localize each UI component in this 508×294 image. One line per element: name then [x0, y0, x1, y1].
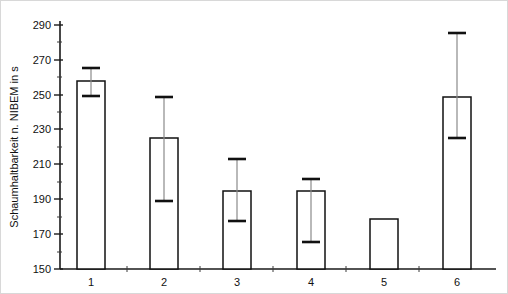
y-tick-label-250: 250 [33, 89, 51, 101]
bar-group-6 [443, 33, 471, 269]
x-tick-label-6: 6 [454, 276, 460, 288]
y-tick-label-290: 290 [33, 19, 51, 31]
x-tick-label-4: 4 [308, 276, 314, 288]
y-tick-label-190: 190 [33, 193, 51, 205]
bar-group-1 [77, 68, 105, 269]
x-tick-label-1: 1 [88, 276, 94, 288]
x-tick-label-2: 2 [161, 276, 167, 288]
chart-figure: 290 270 250 230 210 190 170 150 Schaumha… [0, 0, 508, 294]
y-tick-label-230: 230 [33, 123, 51, 135]
bar-1 [77, 81, 105, 269]
bar-5 [370, 219, 398, 269]
x-tick-label-3: 3 [234, 276, 240, 288]
y-tick-label-270: 270 [33, 54, 51, 66]
bar-group-2 [150, 97, 178, 269]
bar-chart-plot: 290 270 250 230 210 190 170 150 Schaumha… [1, 1, 508, 294]
y-tick-label-150: 150 [33, 263, 51, 275]
y-tick-label-210: 210 [33, 158, 51, 170]
x-tick-label-5: 5 [381, 276, 387, 288]
y-tick-label-170: 170 [33, 228, 51, 240]
bar-group-3 [223, 159, 251, 269]
bar-group-4 [297, 179, 325, 269]
bar-group-5 [370, 219, 398, 269]
y-axis-title: Schaumhaltbarkeit n. NIBEM in s [8, 66, 20, 228]
